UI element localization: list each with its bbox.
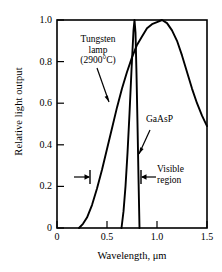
tungsten-lamp-annotation-line-2: lamp: [62, 45, 134, 56]
visible-region-annotation: Visible region: [157, 164, 205, 185]
gaasp-annotation-line-1: GaAsP: [146, 114, 196, 125]
figure-container: Relative light output Wavelength, μm 1.0…: [0, 0, 222, 272]
visible-region-annotation-line-1: Visible: [157, 164, 205, 175]
y-tick-label-0_8: 0.8: [22, 56, 52, 67]
y-tick-label-0_4: 0.4: [22, 139, 52, 150]
tungsten-lamp-annotation-line-1: Tungsten: [62, 34, 134, 45]
tungsten-lamp-annotation-line-3: (2900°C): [62, 55, 134, 66]
gaasp-annotation: GaAsP: [146, 114, 196, 125]
x-tick-label-1_0: 1.0: [142, 231, 172, 242]
x-tick-label-0_5: 0.5: [92, 231, 122, 242]
y-tick-label-0_2: 0.2: [22, 180, 52, 191]
y-tick-label-0_6: 0.6: [22, 97, 52, 108]
tungsten-lamp-annotation: Tungsten lamp (2900°C): [62, 34, 134, 66]
visible-region-annotation-line-2: region: [157, 175, 205, 186]
x-tick-label-0: 0: [42, 231, 72, 242]
y-tick-label-1_0: 1.0: [22, 14, 52, 25]
x-tick-label-1_5: 1.5: [192, 231, 222, 242]
x-axis-title: Wavelength, μm: [57, 250, 207, 261]
